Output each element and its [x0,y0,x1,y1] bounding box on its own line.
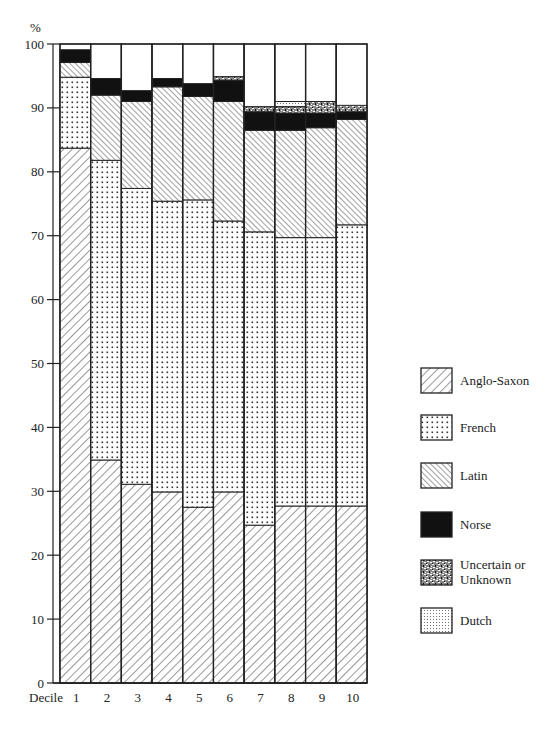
x-tick-label: 10 [346,690,359,705]
bar-decile-3 [121,44,152,683]
segment-norse [214,80,245,101]
segment-latin [275,130,306,237]
legend-label: Latin [460,468,488,483]
bar-decile-8 [275,44,306,683]
segment-norse [183,84,214,97]
segment-uncertain-or-unknown [214,77,245,81]
legend-label: French [460,420,497,435]
legend-label: Dutch [460,613,492,628]
bars [60,44,367,683]
segment-latin [214,102,245,221]
segment-anglo-saxon [152,492,183,683]
segment-anglo-saxon [121,484,152,683]
y-tick-label: 30 [31,484,44,499]
legend-swatch [421,512,452,537]
legend-label: Unknown [460,572,512,587]
segment-anglo-saxon [183,507,214,683]
legend-item-anglo-saxon: Anglo-Saxon [421,368,530,393]
x-tick-label: 9 [319,690,326,705]
bar-decile-4 [152,44,183,683]
legend-swatch [421,463,452,488]
x-tick-label: 3 [135,690,142,705]
legend: Anglo-SaxonFrenchLatinNorseUncertain orU… [421,368,530,633]
segment-anglo-saxon [91,460,122,683]
x-axis-label: Decile [29,690,63,705]
segment-french [244,232,275,525]
segment-norse [121,91,152,102]
x-tick-label: 8 [288,690,295,705]
segment-french [60,77,91,148]
segment-anglo-saxon [275,506,306,683]
y-tick-label: 70 [31,228,44,243]
segment-latin [60,63,91,78]
y-tick-label: 20 [31,548,44,563]
segment-anglo-saxon [60,148,91,683]
y-tick-label: 0 [38,676,45,691]
y-tick-label: 50 [31,356,44,371]
segment-french [91,160,122,460]
bar-decile-2 [91,44,122,683]
bar-decile-1 [60,44,91,683]
segment-latin [152,87,183,201]
y-tick-label: 80 [31,164,44,179]
segment-anglo-saxon [244,525,275,683]
segment-latin [306,128,337,238]
legend-label: Anglo-Saxon [460,373,530,388]
y-axis: 0102030405060708090100% [25,20,61,691]
segment-anglo-saxon [214,492,245,683]
legend-item-french: French [421,415,497,440]
segment-latin [336,119,367,224]
x-tick-label: 7 [257,690,264,705]
segment-dutch [275,102,306,107]
segment-uncertain-or-unknown [244,107,275,112]
segment-latin [91,95,122,160]
segment-uncertain-or-unknown [306,102,337,114]
segment-latin [183,96,214,200]
segment-anglo-saxon [306,506,337,683]
legend-swatch [421,368,452,393]
bar-decile-6 [214,44,245,683]
x-axis: Decile12345678910 [29,683,367,705]
legend-swatch [421,415,452,440]
y-tick-label: 90 [31,100,44,115]
y-tick-label: 10 [31,612,44,627]
legend-swatch [421,560,452,585]
segment-norse [91,79,122,96]
x-tick-label: 5 [196,690,203,705]
legend-item-dutch: Dutch [421,608,492,633]
segment-french [336,225,367,506]
segment-french [306,238,337,506]
y-tick-label: 100 [25,37,45,52]
segment-latin [244,130,275,232]
segment-norse [244,112,275,131]
y-tick-label: 40 [31,420,44,435]
bar-decile-5 [183,44,214,683]
y-tick-label: 60 [31,292,44,307]
segment-french [275,238,306,506]
legend-item-latin: Latin [421,463,488,488]
segment-norse [152,79,183,87]
segment-norse [60,50,91,63]
bar-decile-9 [306,44,337,683]
bar-decile-10 [336,44,367,683]
segment-norse [275,113,306,130]
segment-french [152,201,183,492]
x-tick-label: 6 [227,690,234,705]
segment-uncertain-or-unknown [336,105,367,111]
x-tick-label: 4 [165,690,172,705]
segment-norse [336,112,367,120]
segment-french [214,221,245,492]
segment-latin [121,102,152,189]
segment-french [183,200,214,507]
legend-label: Uncertain or [460,557,526,572]
bar-decile-7 [244,44,275,683]
segment-french [121,188,152,484]
segment-anglo-saxon [336,506,367,683]
y-axis-unit: % [30,20,41,35]
x-tick-label: 1 [73,690,80,705]
legend-label: Norse [460,517,491,532]
stacked-bar-chart: 0102030405060708090100% Decile1234567891… [0,0,546,732]
legend-item-uncertain-or-unknown: Uncertain orUnknown [421,557,526,587]
segment-norse [306,113,337,128]
segment-uncertain-or-unknown [275,107,306,113]
